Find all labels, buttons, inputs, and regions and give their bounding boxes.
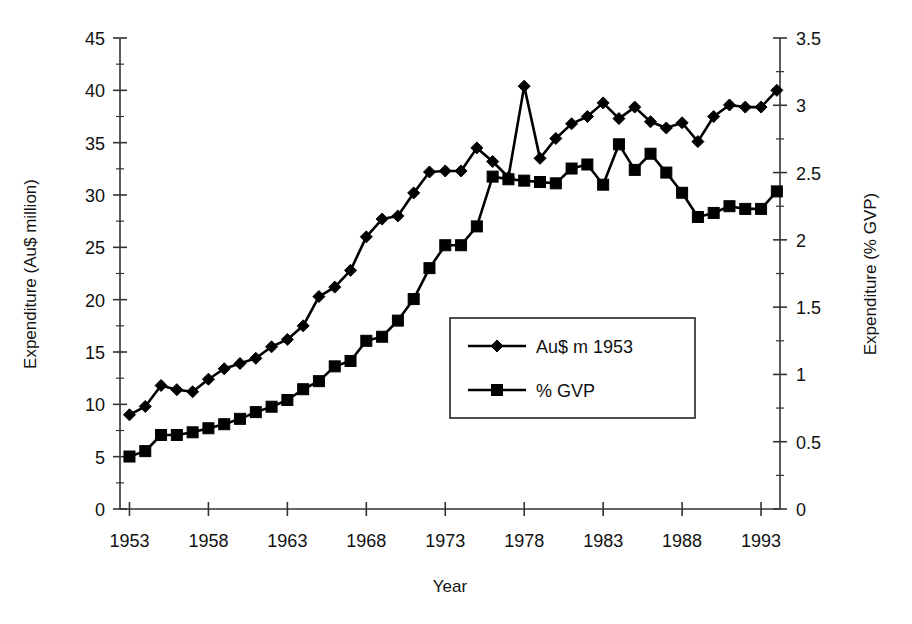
square-marker: [408, 294, 419, 305]
chart-legend: Au$ m 1953% GVP: [450, 318, 695, 418]
x-tick-label: 1993: [741, 531, 781, 551]
x-tick-label: 1958: [188, 531, 228, 551]
square-marker: [566, 163, 577, 174]
left-tick-label: 30: [85, 186, 105, 206]
left-tick-label: 45: [85, 29, 105, 49]
square-marker: [677, 187, 688, 198]
square-marker: [377, 331, 388, 342]
square-marker: [156, 429, 167, 440]
square-marker: [440, 240, 451, 251]
square-marker: [203, 423, 214, 434]
right-tick-label: 0.5: [796, 433, 821, 453]
x-tick-label: 1978: [504, 531, 544, 551]
square-marker: [424, 263, 435, 274]
right-tick-label: 2.5: [796, 164, 821, 184]
legend-label: % GVP: [536, 381, 595, 401]
square-marker: [645, 148, 656, 159]
square-marker: [187, 427, 198, 438]
left-tick-label: 5: [95, 448, 105, 468]
diamond-marker: [660, 122, 672, 134]
right-tick-label: 0: [796, 500, 806, 520]
right-tick-label: 3.5: [796, 29, 821, 49]
square-marker: [250, 407, 261, 418]
x-tick-label: 1973: [425, 531, 465, 551]
square-marker: [661, 167, 672, 178]
right-tick-label: 3: [796, 96, 806, 116]
square-marker: [266, 401, 277, 412]
square-marker: [361, 335, 372, 346]
legend-label: Au$ m 1953: [536, 337, 633, 357]
chart-figure: Expenditure (Au$ million) Expenditure (%…: [0, 0, 912, 624]
diamond-marker: [234, 358, 246, 370]
diamond-marker: [439, 165, 451, 177]
diamond-marker: [123, 409, 135, 421]
left-tick-label: 0: [95, 500, 105, 520]
right-tick-label: 1.5: [796, 298, 821, 318]
x-tick-label: 1953: [109, 531, 149, 551]
square-marker: [140, 446, 151, 457]
diamond-marker: [739, 101, 751, 113]
left-tick-label: 35: [85, 134, 105, 154]
left-tick-label: 10: [85, 395, 105, 415]
diamond-marker: [313, 291, 325, 303]
square-marker: [492, 385, 503, 396]
x-tick-label: 1968: [346, 531, 386, 551]
square-marker: [456, 240, 467, 251]
square-marker: [235, 413, 246, 424]
square-marker: [550, 178, 561, 189]
square-marker: [471, 221, 482, 232]
square-marker: [313, 376, 324, 387]
left-tick-label: 15: [85, 343, 105, 363]
right-tick-label: 2: [796, 231, 806, 251]
square-marker: [487, 171, 498, 182]
x-tick-label: 1983: [583, 531, 623, 551]
square-marker: [392, 315, 403, 326]
square-marker: [598, 179, 609, 190]
square-marker: [756, 203, 767, 214]
square-marker: [535, 176, 546, 187]
square-marker: [219, 419, 230, 430]
x-tick-label: 1963: [267, 531, 307, 551]
square-marker: [329, 361, 340, 372]
right-tick-label: 1: [796, 365, 806, 385]
square-marker: [298, 384, 309, 395]
square-marker: [124, 451, 135, 462]
square-marker: [503, 174, 514, 185]
diamond-marker: [518, 80, 530, 92]
diamond-marker: [171, 384, 183, 396]
square-marker: [771, 186, 782, 197]
line-chart: Expenditure (Au$ million) Expenditure (%…: [0, 0, 912, 624]
square-marker: [171, 429, 182, 440]
legend-box: [450, 318, 695, 418]
square-marker: [519, 175, 530, 186]
left-tick-label: 20: [85, 291, 105, 311]
square-marker: [692, 211, 703, 222]
square-marker: [740, 203, 751, 214]
x-axis-title: Year: [433, 577, 468, 596]
square-marker: [345, 355, 356, 366]
square-marker: [282, 394, 293, 405]
square-marker: [629, 164, 640, 175]
x-tick-label: 1988: [662, 531, 702, 551]
left-axis-title: Expenditure (Au$ million): [21, 179, 40, 369]
square-marker: [613, 139, 624, 150]
left-tick-label: 40: [85, 81, 105, 101]
axis-lines: [120, 38, 780, 509]
square-marker: [708, 207, 719, 218]
left-tick-label: 25: [85, 238, 105, 258]
square-marker: [724, 201, 735, 212]
square-marker: [582, 159, 593, 170]
right-axis-title: Expenditure (% GVP): [861, 193, 880, 356]
